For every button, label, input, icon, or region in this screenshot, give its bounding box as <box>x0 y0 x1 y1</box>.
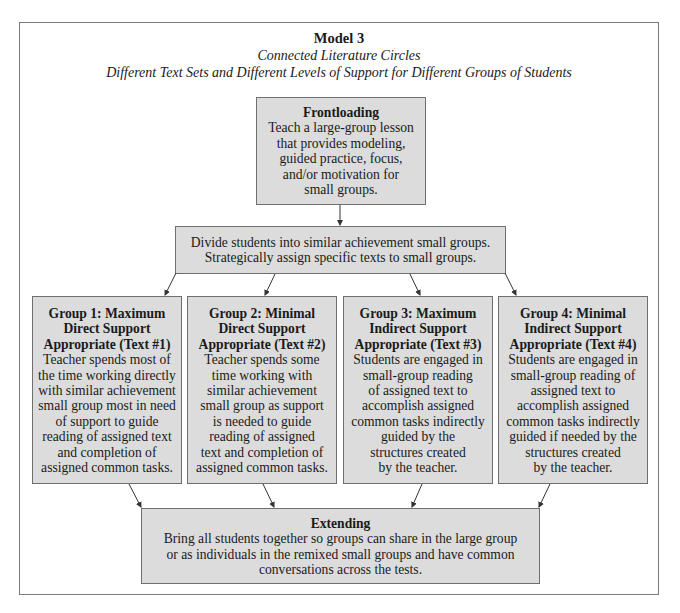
group-line: similar achievement <box>188 383 336 398</box>
group-line: reading of assigned text <box>33 429 181 444</box>
group-line: small-group reading <box>344 368 492 383</box>
group-line: and completion of <box>33 445 181 460</box>
group-heading: Appropriate (Text #3) <box>344 337 492 352</box>
frontloading-box: Frontloading Teach a large-group lesson … <box>256 97 426 205</box>
group-heading: Group 4: Minimal <box>499 306 647 321</box>
group-line: structures created <box>344 445 492 460</box>
group-3-box: Group 3: Maximum Indirect Support Approp… <box>343 296 493 484</box>
header: Model 3 Connected Literature Circles Dif… <box>19 30 659 81</box>
group-line: structures created <box>499 445 647 460</box>
group-line: small group as support <box>188 398 336 413</box>
group-line: of assigned text to <box>344 383 492 398</box>
group-line: is needed to guide <box>188 414 336 429</box>
group-line: Teacher spends most of <box>33 352 181 367</box>
group-line: common tasks indirectly <box>344 414 492 429</box>
extending-line: or as individuals in the remixed small g… <box>142 547 539 562</box>
model-title: Model 3 <box>19 30 659 47</box>
group-line: common tasks indirectly <box>499 414 647 429</box>
group-heading: Appropriate (Text #2) <box>188 337 336 352</box>
extending-line: Bring all students together so groups ca… <box>142 531 539 546</box>
divide-line: Divide students into similar achievement… <box>176 235 505 250</box>
group-heading: Indirect Support <box>344 321 492 336</box>
group-line: by the teacher. <box>344 460 492 475</box>
group-line: text and completion of <box>188 445 336 460</box>
group-line: of support to guide <box>33 414 181 429</box>
group-heading: Group 3: Maximum <box>344 306 492 321</box>
group-line: Teacher spends some <box>188 352 336 367</box>
group-line: small-group reading of <box>499 368 647 383</box>
group-line: Students are engaged in <box>344 352 492 367</box>
model-description: Different Text Sets and Different Levels… <box>19 64 659 81</box>
extending-heading: Extending <box>142 516 539 531</box>
group-line: guided if needed by the <box>499 429 647 444</box>
divide-line: Strategically assign specific texts to s… <box>176 250 505 265</box>
frontloading-line: small groups. <box>257 182 425 197</box>
group-heading: Indirect Support <box>499 321 647 336</box>
divide-groups-box: Divide students into similar achievement… <box>175 226 506 274</box>
frontloading-line: and/or motivation for <box>257 167 425 182</box>
group-line: accomplish assigned <box>499 398 647 413</box>
group-line: guided by the <box>344 429 492 444</box>
group-line: accomplish assigned <box>344 398 492 413</box>
group-4-box: Group 4: Minimal Indirect Support Approp… <box>498 296 648 484</box>
model-subtitle: Connected Literature Circles <box>19 47 659 64</box>
group-heading: Direct Support <box>33 321 181 336</box>
group-line: the time working directly <box>33 368 181 383</box>
group-heading: Group 2: Minimal <box>188 306 336 321</box>
frontloading-heading: Frontloading <box>257 105 425 120</box>
group-1-box: Group 1: Maximum Direct Support Appropri… <box>32 296 182 484</box>
group-heading: Appropriate (Text #4) <box>499 337 647 352</box>
group-line: time working with <box>188 368 336 383</box>
frontloading-line: guided practice, focus, <box>257 151 425 166</box>
group-line: assigned common tasks. <box>188 460 336 475</box>
extending-line: conversations across the tests. <box>142 562 539 577</box>
group-line: Students are engaged in <box>499 352 647 367</box>
group-heading: Appropriate (Text #1) <box>33 337 181 352</box>
group-2-box: Group 2: Minimal Direct Support Appropri… <box>187 296 337 484</box>
frontloading-line: that provides modeling, <box>257 136 425 151</box>
group-line: assigned text to <box>499 383 647 398</box>
extending-box: Extending Bring all students together so… <box>141 508 540 584</box>
group-line: reading of assigned <box>188 429 336 444</box>
group-heading: Group 1: Maximum <box>33 306 181 321</box>
group-heading: Direct Support <box>188 321 336 336</box>
group-line: assigned common tasks. <box>33 460 181 475</box>
group-line: with similar achievement <box>33 383 181 398</box>
group-line: by the teacher. <box>499 460 647 475</box>
frontloading-line: Teach a large-group lesson <box>257 120 425 135</box>
group-line: small group most in need <box>33 398 181 413</box>
